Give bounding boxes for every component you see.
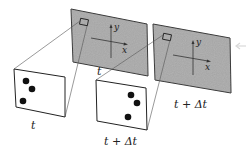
x-axis-label: x [122, 45, 127, 55]
frame-label-t: t [97, 65, 102, 78]
x-axis-label: x [205, 62, 210, 72]
magnified-window-t [14, 69, 65, 117]
window-label-t: t [31, 119, 36, 132]
image-plane-t: y x [71, 9, 148, 76]
feature-dot [134, 100, 141, 107]
y-axis-label: y [195, 37, 202, 47]
image-plane-t-dt: y x [153, 24, 231, 93]
feature-dot [20, 98, 27, 105]
y-axis-label: y [113, 22, 120, 32]
magnified-window-t-dt [96, 80, 147, 130]
frame-label-t-dt: t + Δt [174, 98, 208, 111]
faint-arrow-icon [236, 43, 246, 49]
window-label-t-dt: t + Δt [104, 135, 138, 148]
feature-dot [23, 78, 30, 85]
feature-dot [29, 86, 36, 93]
feature-dot [125, 114, 132, 121]
optical-flow-diagram: y x y x t t + Δt t t + Δ [0, 0, 248, 150]
feature-dot [128, 92, 135, 99]
